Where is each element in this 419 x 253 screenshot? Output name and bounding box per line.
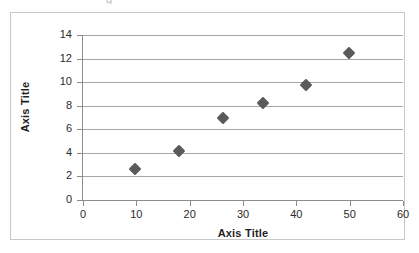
x-axis-tick-label: 40 bbox=[281, 209, 311, 220]
x-axis-tick bbox=[136, 201, 137, 206]
y-axis-tick-label: 4 bbox=[42, 147, 72, 158]
scatter-point bbox=[343, 46, 356, 59]
y-axis-tick bbox=[77, 129, 83, 130]
y-axis-tick-label: 14 bbox=[42, 29, 72, 40]
y-axis-tick bbox=[77, 35, 83, 36]
gridline bbox=[83, 153, 403, 154]
x-axis-tick-label: 30 bbox=[228, 209, 258, 220]
y-axis-tick-label: 0 bbox=[42, 194, 72, 205]
x-axis-tick bbox=[190, 201, 191, 206]
y-axis-tick-label: 6 bbox=[42, 123, 72, 134]
gridline bbox=[83, 129, 403, 130]
gridline bbox=[83, 106, 403, 107]
y-axis-tick bbox=[77, 153, 83, 154]
x-axis-tick bbox=[350, 201, 351, 206]
y-axis-title: Axis Title bbox=[19, 67, 31, 147]
y-axis-tick-label: 2 bbox=[42, 170, 72, 181]
y-axis-tick bbox=[77, 106, 83, 107]
gridline bbox=[83, 82, 403, 83]
y-axis-tick-label: 10 bbox=[42, 76, 72, 87]
chart-frame: 02468101214 0102030405060 Axis Title Axi… bbox=[10, 12, 405, 240]
scatter-point bbox=[257, 97, 270, 110]
x-axis-tick-label: 50 bbox=[335, 209, 365, 220]
gridline bbox=[83, 35, 403, 36]
x-axis-tick-label: 60 bbox=[388, 209, 418, 220]
x-axis-title: Axis Title bbox=[83, 227, 403, 239]
x-axis-tick bbox=[296, 201, 297, 206]
x-axis-tick bbox=[83, 201, 84, 206]
x-axis-tick-label: 10 bbox=[121, 209, 151, 220]
x-axis-tick bbox=[403, 201, 404, 206]
scatter-point bbox=[300, 78, 313, 91]
gridline bbox=[83, 176, 403, 177]
y-axis-tick bbox=[77, 59, 83, 60]
y-axis-tick bbox=[77, 82, 83, 83]
x-axis-tick-label: 20 bbox=[175, 209, 205, 220]
y-axis-tick-label: 8 bbox=[42, 100, 72, 111]
scatter-point bbox=[173, 144, 186, 157]
x-axis-tick-label: 0 bbox=[68, 209, 98, 220]
scatter-point bbox=[217, 111, 230, 124]
scanned-page: g 02468101214 0102030405060 Axis Title A… bbox=[0, 0, 419, 253]
scatter-point bbox=[129, 163, 142, 176]
x-axis-tick bbox=[243, 201, 244, 206]
y-axis-tick bbox=[77, 176, 83, 177]
cropped-title-remnant: g bbox=[106, 0, 118, 4]
y-axis-tick-label: 12 bbox=[42, 53, 72, 64]
gridline bbox=[83, 59, 403, 60]
